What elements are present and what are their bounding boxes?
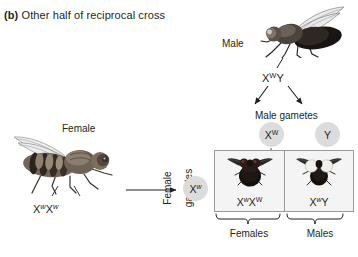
gamete-x-w-female-sup: w [196, 183, 201, 190]
punnett-males-base2: Y [322, 196, 329, 208]
male-genotype-rest: Y [276, 72, 283, 84]
punnett-genotype-females: XwXW [215, 196, 284, 208]
punnett-cell-females: XwXW [215, 151, 284, 211]
panel-letter: (b) [4, 9, 18, 21]
punnett-square: XwXW [214, 150, 354, 212]
gamete-x-w-base: X [265, 129, 272, 141]
gamete-x-w-sup: W [272, 129, 279, 136]
panel-title: (b) Other half of reciprocal cross [4, 9, 165, 21]
offspring-fly-red-eyed [225, 155, 275, 193]
figure-panel-b: (b) Other half of reciprocal cross [0, 0, 358, 257]
panel-title-text: Other half of reciprocal cross [22, 9, 166, 21]
male-label: Male [222, 38, 244, 49]
offspring-fly-white-eyed [294, 155, 344, 193]
punnett-females-sup2: W [256, 196, 263, 203]
caption-males: Males [275, 228, 358, 239]
punnett-cell-males: XwY [284, 151, 353, 211]
male-genotype: XWY [262, 72, 284, 84]
punnett-females-base1: X [237, 196, 244, 208]
female-gametes-label-line1: Female [163, 148, 174, 228]
female-genotype-base2: X [46, 203, 53, 215]
female-fly-illustration [12, 133, 127, 199]
female-genotype-sup2: w [53, 202, 58, 211]
male-gametes-label: Male gametes [255, 110, 318, 121]
female-genotype: XwXw [33, 203, 59, 215]
gamete-x-w-female: Xw [183, 176, 208, 201]
male-fly-illustration [252, 6, 352, 62]
punnett-females-base2: X [249, 196, 256, 208]
female-label: Female [62, 123, 95, 134]
gamete-y: Y [315, 122, 340, 147]
punnett-genotype-males: XwY [285, 196, 353, 208]
gamete-x-w: XW [259, 122, 284, 147]
gamete-y-base: Y [324, 129, 331, 141]
